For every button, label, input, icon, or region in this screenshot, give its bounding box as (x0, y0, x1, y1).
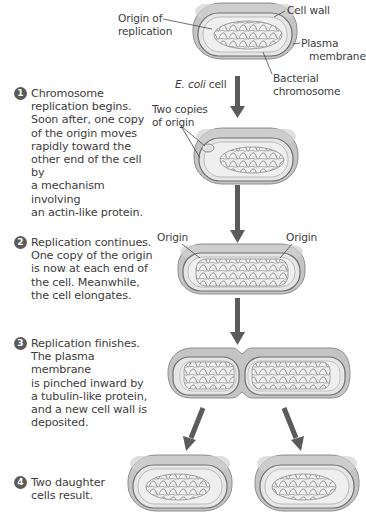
bacterial-chromosome (214, 21, 282, 49)
step-number-badge: 4 (14, 476, 27, 489)
step-line: deposited. (31, 416, 156, 429)
step-line: a tubulin-like protein, (31, 390, 156, 403)
step-line: an actin-like protein. (31, 206, 156, 219)
label-line: replication (118, 25, 172, 38)
label-cell-wall: Cell wall (287, 4, 330, 17)
label-plasma-membrane: Plasma membrane (301, 37, 366, 62)
label-line: chromosome (273, 85, 340, 98)
diagonal-arrow-right-icon (284, 408, 304, 451)
daughter-cell-right (255, 455, 359, 511)
ecoli-cell-origin-copied (194, 128, 298, 184)
label-line: Plasma (301, 37, 366, 50)
label-origin-right: Origin (286, 231, 317, 244)
step-line: replication begins. (31, 100, 156, 113)
label-cell-word: cell (206, 78, 227, 90)
step-line: Two daughter (31, 476, 156, 489)
label-ecoli-cell: E. coli cell (175, 78, 226, 91)
step-number-badge: 3 (14, 337, 27, 350)
label-line: Bacterial (273, 72, 340, 85)
step-description: Chromosome replication begins. Soon afte… (31, 87, 156, 219)
step-number-badge: 2 (14, 236, 27, 249)
step-line: and a new cell wall is (31, 403, 156, 416)
step-line: the cell. Meanwhile, (31, 276, 156, 289)
step-line: Soon after, one copy (31, 113, 156, 126)
label-line: Two copies (152, 103, 208, 116)
label-origin-of-replication: Origin of replication (118, 12, 172, 37)
ecoli-cell-dividing (168, 348, 350, 398)
label-ecoli-species: E. coli (175, 78, 206, 90)
step-number-badge: 1 (14, 87, 27, 100)
down-arrow-icon (230, 76, 245, 118)
step-line: a mechanism involving (31, 179, 156, 205)
label-two-copies-of-origin: Two copies of origin (152, 103, 208, 128)
step-description: Replication continues. One copy of the o… (31, 236, 156, 302)
label-bacterial-chromosome: Bacterial chromosome (273, 72, 340, 97)
step-line: cells result. (31, 489, 156, 502)
step-line: One copy of the origin (31, 249, 156, 262)
step-line: is now at each end of (31, 262, 156, 275)
ecoli-cell (193, 3, 297, 59)
label-line: membrane (309, 50, 366, 63)
step-line: of the origin moves (31, 127, 156, 140)
label-line: of origin (152, 116, 208, 129)
diagonal-arrow-left-icon (183, 408, 203, 451)
down-arrow-icon (230, 298, 245, 345)
step-line: rapidly toward the (31, 140, 156, 153)
step-line: is pinched inward by (31, 377, 156, 390)
step-line: Chromosome (31, 87, 156, 100)
down-arrow-icon (230, 185, 245, 243)
label-origin-left: Origin (157, 231, 188, 244)
step-line: other end of the cell by (31, 153, 156, 179)
step-description: Replication finishes. The plasma membran… (31, 337, 156, 429)
step-line: The plasma membrane (31, 350, 156, 376)
step-line: Replication continues. (31, 236, 156, 249)
step-line: the cell elongates. (31, 289, 156, 302)
step-line: Replication finishes. (31, 337, 156, 350)
step-description: Two daughter cells result. (31, 476, 156, 502)
label-line: Origin of (118, 12, 172, 25)
